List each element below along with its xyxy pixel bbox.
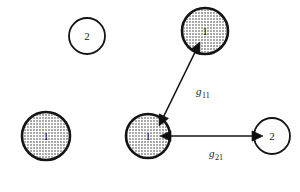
nodes-layer: 21112 xyxy=(22,8,290,160)
edge-label: g11 xyxy=(196,85,210,100)
node-label: 2 xyxy=(269,130,275,142)
edge-g11 xyxy=(159,42,200,126)
diagram-svg: 21112 g11g21 xyxy=(0,0,300,192)
node-label: 2 xyxy=(84,30,90,42)
node-label: 1 xyxy=(145,130,151,142)
node-top-right[interactable]: 1 xyxy=(182,8,228,54)
edge-label-subscript: 11 xyxy=(202,91,210,100)
node-top-left[interactable]: 2 xyxy=(69,18,105,54)
diagram-canvas: 21112 g11g21 xyxy=(0,0,300,192)
node-label: 1 xyxy=(202,25,208,37)
node-label: 1 xyxy=(43,130,49,142)
edge-label-subscript: 21 xyxy=(215,153,223,162)
arrowheads-layer xyxy=(159,42,263,141)
node-bottom-left[interactable]: 1 xyxy=(22,112,70,160)
edge-labels-layer: g11g21 xyxy=(196,85,223,162)
edge-line xyxy=(159,42,200,126)
edges-layer xyxy=(159,42,263,136)
edge-label: g21 xyxy=(209,147,223,162)
